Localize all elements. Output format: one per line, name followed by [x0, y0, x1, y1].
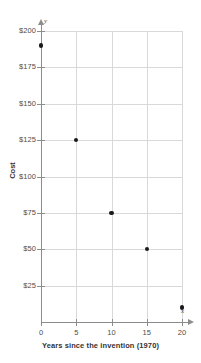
- x-tick-label: 20: [167, 328, 197, 337]
- y-tick-label: $125: [0, 135, 36, 144]
- x-axis-title: Years since the invention (1970): [0, 341, 201, 350]
- x-tick-label: 15: [132, 328, 162, 337]
- x-axis-line: [41, 322, 189, 323]
- y-tick-mark: [37, 286, 45, 287]
- data-point: [109, 211, 113, 215]
- x-tick-mark: [147, 319, 148, 326]
- y-tick-label: $200: [0, 26, 36, 35]
- x-tick-mark: [76, 319, 77, 326]
- plot-area: [41, 31, 182, 322]
- y-tick-mark: [37, 249, 45, 250]
- gridline-vertical: [182, 31, 183, 322]
- gridline-vertical: [147, 31, 148, 322]
- x-tick-mark: [182, 319, 183, 326]
- gridline-vertical: [112, 31, 113, 322]
- scatter-chart: y x $25$50$75$100$125$150$175$200 051015…: [0, 0, 201, 363]
- data-point: [39, 43, 43, 47]
- y-tick-mark: [37, 213, 45, 214]
- x-tick-mark: [112, 319, 113, 326]
- y-axis-letter: y: [44, 17, 47, 25]
- x-tick-mark: [41, 319, 42, 326]
- y-tick-mark: [37, 140, 45, 141]
- y-tick-mark: [37, 31, 45, 32]
- y-tick-label: $25: [0, 281, 36, 290]
- y-tick-label: $100: [0, 172, 36, 181]
- x-axis-arrow-icon: [188, 319, 194, 325]
- y-tick-label: $175: [0, 62, 36, 71]
- y-axis-title: Cost: [8, 141, 17, 201]
- x-tick-label: 10: [97, 328, 127, 337]
- y-tick-mark: [37, 177, 45, 178]
- y-axis-line: [41, 24, 42, 323]
- x-tick-label: 0: [26, 328, 56, 337]
- data-point: [180, 305, 184, 309]
- y-tick-mark: [37, 67, 45, 68]
- y-tick-mark: [37, 104, 45, 105]
- x-tick-label: 5: [61, 328, 91, 337]
- y-tick-label: $75: [0, 208, 36, 217]
- y-tick-label: $50: [0, 244, 36, 253]
- y-tick-label: $150: [0, 99, 36, 108]
- gridline-vertical: [76, 31, 77, 322]
